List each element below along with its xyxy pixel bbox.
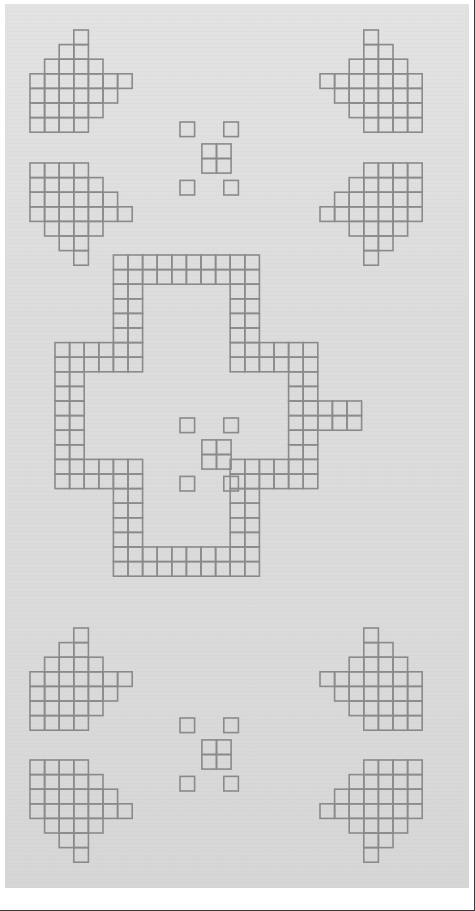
grid-cell: [99, 459, 114, 474]
grid-cell: [30, 701, 45, 716]
grid-cell: [74, 643, 89, 658]
grid-cell: [88, 103, 103, 118]
grid-cell: [245, 547, 260, 562]
corner-shape-lower-left: [30, 628, 132, 730]
grid-cell: [202, 440, 217, 455]
grid-cell: [70, 430, 85, 445]
grid-cell: [364, 701, 379, 716]
grid-cell: [245, 459, 260, 474]
grid-cell: [217, 159, 232, 174]
grid-cell: [224, 180, 239, 195]
grid-cell: [230, 547, 245, 562]
grid-cell: [55, 430, 70, 445]
grid-cell: [332, 416, 347, 431]
grid-cell: [393, 686, 408, 701]
grid-cell: [186, 255, 201, 270]
grid-cell: [349, 701, 364, 716]
corner-shape-middle-right: [320, 163, 422, 265]
corner-shape-middle-left: [30, 163, 132, 265]
grid-cell: [59, 88, 74, 103]
grid-cell: [245, 313, 260, 328]
grid-cell: [378, 221, 393, 236]
grid-cell: [364, 74, 379, 89]
grid-cell: [30, 192, 45, 207]
grid-cell: [335, 789, 350, 804]
grid-cell: [303, 343, 318, 358]
grid-cell: [45, 775, 60, 790]
grid-cell: [289, 430, 304, 445]
grid-cell: [245, 343, 260, 358]
grid-cell: [245, 489, 260, 504]
grid-cell: [45, 789, 60, 804]
grid-cell: [364, 118, 379, 133]
grid-cell: [74, 804, 89, 819]
grid-cell: [393, 163, 408, 178]
grid-cell: [364, 236, 379, 251]
grid-cell: [70, 372, 85, 387]
grid-cell: [59, 643, 74, 658]
grid-cell: [59, 818, 74, 833]
grid-cell: [378, 686, 393, 701]
grid-cell: [349, 103, 364, 118]
grid-cell: [303, 357, 318, 372]
grid-cell: [245, 562, 260, 577]
grid-pattern-figure: [0, 0, 475, 911]
grid-cell: [320, 804, 335, 819]
grid-cell: [230, 343, 245, 358]
grid-cell: [408, 701, 423, 716]
grid-cell: [74, 628, 89, 643]
grid-cell: [289, 372, 304, 387]
grid-cell: [349, 88, 364, 103]
grid-cell: [245, 357, 260, 372]
grid-cell: [74, 833, 89, 848]
grid-cell: [202, 144, 217, 159]
grid-cell: [88, 178, 103, 193]
grid-cell: [74, 207, 89, 222]
grid-cell: [245, 270, 260, 285]
grid-cell: [59, 701, 74, 716]
grid-cell: [74, 30, 89, 45]
grid-cell: [45, 221, 60, 236]
grid-cell: [59, 672, 74, 687]
grid-cell: [59, 59, 74, 74]
grid-cell: [230, 284, 245, 299]
grid-cell: [103, 192, 118, 207]
grid-cell: [245, 328, 260, 343]
grid-cell: [378, 789, 393, 804]
grid-cell: [378, 207, 393, 222]
grid-cell: [74, 118, 89, 133]
grid-cell: [335, 74, 350, 89]
grid-cell: [364, 221, 379, 236]
grid-cell: [378, 643, 393, 658]
grid-cell: [245, 299, 260, 314]
grid-cell: [335, 88, 350, 103]
grid-cell: [70, 459, 85, 474]
grid-cell: [378, 804, 393, 819]
grid-cell: [393, 657, 408, 672]
grid-cell: [30, 163, 45, 178]
corner-shape-bottom-right: [320, 760, 422, 862]
grid-cell: [30, 716, 45, 731]
grid-cell: [88, 657, 103, 672]
grid-cell: [84, 343, 99, 358]
grid-cell: [378, 118, 393, 133]
grid-cell: [128, 255, 143, 270]
grid-cell: [113, 532, 128, 547]
grid-cell: [113, 328, 128, 343]
grid-cell: [349, 789, 364, 804]
grid-cell: [408, 207, 423, 222]
grid-cell: [320, 74, 335, 89]
grid-cell: [364, 88, 379, 103]
grid-cell: [74, 74, 89, 89]
grid-cell: [201, 255, 216, 270]
grid-cell: [378, 236, 393, 251]
grid-cell: [74, 701, 89, 716]
grid-cell: [349, 207, 364, 222]
grid-cell: [172, 270, 187, 285]
grid-cell: [318, 401, 333, 416]
grid-cell: [59, 103, 74, 118]
grid-cell: [84, 357, 99, 372]
grid-cell: [364, 833, 379, 848]
grid-cell: [30, 74, 45, 89]
grid-cell: [393, 716, 408, 731]
